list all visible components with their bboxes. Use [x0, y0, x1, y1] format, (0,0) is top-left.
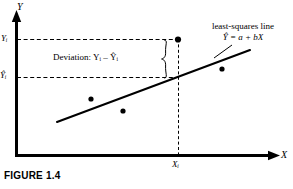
data-point: [120, 108, 125, 113]
legend-leader-line: [214, 45, 232, 58]
x-axis-label: X: [281, 150, 287, 160]
figure-container: Y X Yᵢ Ŷᵢ Xᵢ Deviation: Yᵢ – Ŷᵢ least-sq…: [0, 0, 293, 189]
data-point-highlighted: [175, 36, 181, 42]
deviation-annotation: Deviation: Yᵢ – Ŷᵢ: [53, 53, 118, 62]
y-axis-label: Y: [17, 2, 23, 12]
data-point: [219, 66, 224, 71]
y-hat-i-tick-label: Ŷᵢ: [0, 71, 6, 80]
data-point: [88, 96, 93, 101]
legend-equation-label: Ŷ = a + bX: [196, 33, 290, 42]
x-i-tick-label: Xᵢ: [172, 160, 179, 169]
y-axis: [12, 10, 21, 157]
x-axis: [16, 151, 280, 160]
y-i-tick-label: Yᵢ: [1, 34, 7, 43]
deviation-brace: [162, 40, 167, 78]
legend-least-squares-line-label: least-squares line: [196, 22, 290, 31]
figure-caption: FIGURE 1.4: [4, 170, 60, 181]
